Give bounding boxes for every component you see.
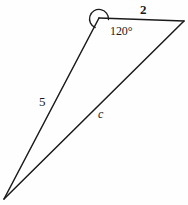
label-side-right: c (98, 108, 103, 120)
label-side-top: 2 (140, 3, 147, 16)
label-side-left: 5 (39, 95, 46, 108)
label-angle-120: 120° (110, 25, 132, 37)
triangle-side-left (4, 18, 99, 199)
triangle-drawing (0, 0, 188, 205)
geometry-figure: 2 120° 5 c (0, 0, 188, 205)
triangle-side-top (99, 18, 184, 21)
triangle-side-right (4, 21, 184, 199)
